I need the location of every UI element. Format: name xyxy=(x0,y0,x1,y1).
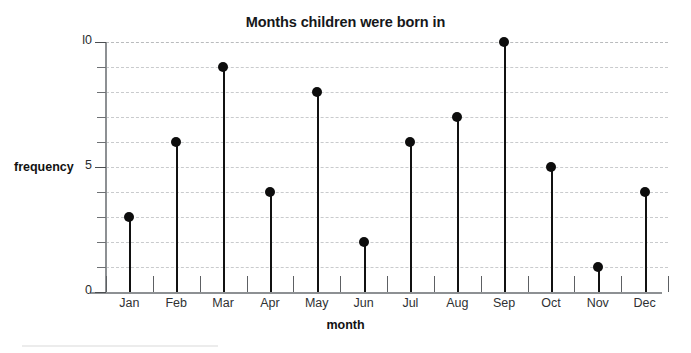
gridline-9 xyxy=(106,67,668,68)
y-tick-10 xyxy=(95,42,106,43)
data-point-may xyxy=(312,87,322,97)
y-tick-9 xyxy=(97,67,106,68)
y-tick-4 xyxy=(97,192,106,193)
x-tick-boundary-8 xyxy=(481,276,482,292)
data-point-jul xyxy=(405,137,415,147)
x-label-aug: Aug xyxy=(446,296,468,310)
x-label-jul: Jul xyxy=(402,296,418,310)
x-tick-boundary-0 xyxy=(106,276,107,292)
x-label-oct: Oct xyxy=(541,296,560,310)
stem-apr xyxy=(270,192,272,292)
stem-mar xyxy=(223,67,225,292)
y-tick-label-0: 0 xyxy=(12,283,92,297)
y-tick-3 xyxy=(97,217,106,218)
x-label-nov: Nov xyxy=(587,296,609,310)
data-point-dec xyxy=(640,187,650,197)
y-tick-2 xyxy=(97,242,106,243)
gridline-1 xyxy=(106,267,668,268)
x-label-mar: Mar xyxy=(212,296,234,310)
x-label-jun: Jun xyxy=(354,296,374,310)
x-tick-boundary-11 xyxy=(621,276,622,292)
x-label-dec: Dec xyxy=(633,296,655,310)
x-tick-boundary-1 xyxy=(153,276,154,292)
y-tick-7 xyxy=(97,117,106,118)
plot-area xyxy=(106,42,668,292)
stem-jan xyxy=(129,217,131,292)
data-point-aug xyxy=(452,112,462,122)
stem-oct xyxy=(551,167,553,292)
x-tick-boundary-10 xyxy=(574,276,575,292)
x-label-sep: Sep xyxy=(493,296,515,310)
x-axis-title: month xyxy=(0,318,691,332)
data-point-apr xyxy=(265,187,275,197)
x-tick-boundary-3 xyxy=(247,276,248,292)
x-tick-boundary-4 xyxy=(293,276,294,292)
y-tick-label-5: 5 xyxy=(12,158,92,172)
x-tick-boundary-9 xyxy=(528,276,529,292)
gridline-2 xyxy=(106,242,668,243)
footer-divider xyxy=(22,345,218,347)
chart-figure: Months children were born in frequency m… xyxy=(0,0,691,353)
gridline-3 xyxy=(106,217,668,218)
gridline-5 xyxy=(106,167,668,168)
stem-aug xyxy=(457,117,459,292)
gridline-4 xyxy=(106,192,668,193)
x-tick-boundary-7 xyxy=(434,276,435,292)
data-point-oct xyxy=(546,162,556,172)
stem-sep xyxy=(504,42,506,292)
chart-title: Months children were born in xyxy=(0,14,691,30)
data-point-sep xyxy=(499,37,509,47)
y-tick-label-10: l0 xyxy=(12,33,92,47)
y-tick-5 xyxy=(95,167,106,168)
data-point-nov xyxy=(593,262,603,272)
gridline-8 xyxy=(106,92,668,93)
data-point-feb xyxy=(171,137,181,147)
stem-jun xyxy=(364,242,366,292)
data-point-jan xyxy=(124,212,134,222)
x-tick-boundary-5 xyxy=(340,276,341,292)
gridline-6 xyxy=(106,142,668,143)
x-axis-line xyxy=(90,292,662,294)
y-tick-1 xyxy=(97,267,106,268)
stem-feb xyxy=(176,142,178,292)
x-label-jan: Jan xyxy=(119,296,139,310)
x-label-feb: Feb xyxy=(165,296,187,310)
x-label-may: May xyxy=(305,296,329,310)
y-tick-8 xyxy=(97,92,106,93)
y-tick-0 xyxy=(95,292,106,293)
stem-jul xyxy=(410,142,412,292)
x-tick-boundary-2 xyxy=(200,276,201,292)
x-tick-boundary-6 xyxy=(387,276,388,292)
gridline-7 xyxy=(106,117,668,118)
x-label-apr: Apr xyxy=(260,296,279,310)
gridline-10 xyxy=(106,42,668,43)
stem-dec xyxy=(645,192,647,292)
x-tick-boundary-12 xyxy=(668,276,669,292)
data-point-jun xyxy=(359,237,369,247)
stem-may xyxy=(317,92,319,292)
y-tick-6 xyxy=(97,142,106,143)
data-point-mar xyxy=(218,62,228,72)
